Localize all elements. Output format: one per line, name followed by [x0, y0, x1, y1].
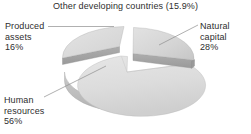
pie-chart-figure: Other developing countries (15.9%) [0, 0, 251, 134]
slice-label-human-resources: Human resources 56% [4, 95, 44, 127]
pie-slice-natural-capital [133, 28, 195, 69]
slice-label-natural-capital: Natural capital 28% [200, 21, 230, 53]
slice-label-produced-assets: Produced assets 16% [5, 21, 44, 53]
